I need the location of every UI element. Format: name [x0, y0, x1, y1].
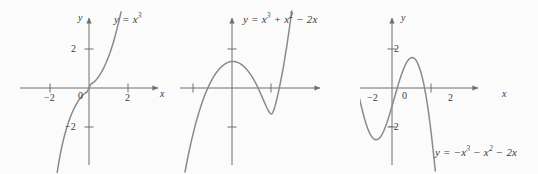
x-axis-label-1: x: [160, 88, 164, 99]
x-tick-label-neg2-1: −2: [44, 92, 55, 103]
eq-term1-exp-2: 3: [267, 11, 271, 20]
eq-term1-exp-3: 3: [466, 144, 470, 153]
eq-lhs-1: y: [114, 13, 119, 25]
y-tick-label-neg2-1: −2: [65, 121, 76, 132]
eq-term1-exp-1: 3: [138, 11, 142, 20]
x-tick-label-pos2-1: 2: [125, 92, 130, 103]
plot-panel-2: x y −2 2 2 −2 0 y = x3 + x2 − 2x: [180, 0, 360, 174]
figure-canvas: x y −2 2 2 −2 0 y = x3: [0, 0, 538, 174]
y-axis-label-1: y: [78, 12, 82, 23]
y-tick-label-pos2-1: 2: [71, 43, 76, 54]
plot-panel-3: x y −2 2 2 −2 0 y = −x3 − x2 − 2x: [360, 0, 538, 174]
eq-op1-3: −: [473, 146, 481, 158]
eq-term2-exp-2: 2: [289, 11, 293, 20]
eq-term2-exp-3: 2: [489, 144, 493, 153]
plot-svg-2: [180, 0, 360, 174]
curve-cubic-3: [360, 12, 435, 171]
eq-lhs-2: y: [243, 13, 248, 25]
equation-label-2: y = x3 + x2 − 2x: [243, 13, 318, 25]
plot-svg-1: [0, 0, 180, 174]
plot-panel-1: x y −2 2 2 −2 0 y = x3: [0, 0, 180, 174]
eq-term3-2: 2x: [307, 13, 318, 25]
eq-sign-1: =: [122, 13, 130, 25]
eq-op2-2: −: [296, 13, 304, 25]
curve-cubic-2: [185, 11, 292, 172]
eq-op2-3: −: [496, 146, 504, 158]
eq-term3-3: 2x: [506, 146, 517, 158]
eq-sign-2: =: [251, 13, 259, 25]
eq-op1-2: +: [274, 13, 282, 25]
origin-label-1: 0: [78, 90, 83, 101]
equation-label-3: y = −x3 − x2 − 2x: [435, 146, 517, 158]
equation-label-1: y = x3: [114, 13, 142, 25]
eq-lhs-3: y: [435, 146, 440, 158]
eq-sign-3: =: [443, 146, 451, 158]
